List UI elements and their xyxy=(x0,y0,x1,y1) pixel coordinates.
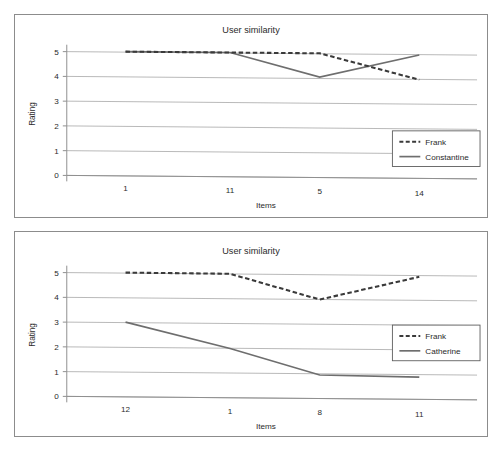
chart-panel-1: User similarity xyxy=(14,14,488,218)
y-tick-label: 2 xyxy=(54,122,59,131)
chart-title: User similarity xyxy=(222,25,280,35)
series-line-constantine xyxy=(126,52,420,78)
y-tick-label: 4 xyxy=(54,72,59,81)
chart-title: User similarity xyxy=(222,246,280,256)
x-axis-line xyxy=(67,175,477,178)
y-tick-label: 0 xyxy=(54,171,59,180)
x-tick-label: 11 xyxy=(415,410,424,419)
line-chart-1: User similarity xyxy=(15,15,487,217)
x-tick-labels: 12 1 8 11 xyxy=(121,405,424,419)
x-tick-label: 1 xyxy=(228,407,233,416)
y-tick-marks xyxy=(63,52,67,176)
y-tick-label: 3 xyxy=(54,97,59,106)
y-tick-labels: 5 4 3 2 1 0 xyxy=(54,48,59,181)
chart-panel-2: User similarity 5 4 xyxy=(14,231,488,437)
y-axis-title: Rating xyxy=(28,102,37,125)
x-tick-label: 11 xyxy=(226,186,235,195)
series-line-frank xyxy=(126,52,420,80)
x-tick-labels: 1 11 5 14 xyxy=(123,184,424,198)
legend-label-frank: Frank xyxy=(425,138,447,147)
x-tick-label: 12 xyxy=(121,405,131,414)
legend-label-constantine: Constantine xyxy=(425,153,469,162)
line-chart-2: User similarity 5 4 xyxy=(15,232,487,436)
y-tick-label: 5 xyxy=(54,269,59,278)
legend-label-catherine: Catherine xyxy=(425,347,461,356)
x-axis-title: Items xyxy=(256,422,276,431)
y-tick-marks xyxy=(63,273,67,397)
series-line-frank xyxy=(126,273,420,300)
y-tick-label: 2 xyxy=(54,343,59,352)
legend[interactable]: Frank Constantine xyxy=(392,131,480,167)
y-tick-label: 3 xyxy=(54,318,59,327)
x-axis-line xyxy=(67,396,477,399)
y-tick-label: 1 xyxy=(54,368,59,377)
x-tick-label: 1 xyxy=(123,184,128,193)
y-tick-label: 0 xyxy=(54,392,59,401)
legend[interactable]: Frank Catherine xyxy=(392,325,480,361)
y-axis-title: Rating xyxy=(28,323,37,346)
page-root: User similarity xyxy=(0,0,502,451)
y-tick-label: 4 xyxy=(54,293,59,302)
y-tick-labels: 5 4 3 2 1 0 xyxy=(54,269,59,402)
x-tick-label: 8 xyxy=(317,408,322,417)
x-tick-label: 14 xyxy=(415,189,425,198)
y-tick-label: 5 xyxy=(54,48,59,57)
x-axis-title: Items xyxy=(256,201,276,210)
x-tick-label: 5 xyxy=(317,187,322,196)
legend-label-frank: Frank xyxy=(425,332,447,341)
y-tick-label: 1 xyxy=(54,147,59,156)
